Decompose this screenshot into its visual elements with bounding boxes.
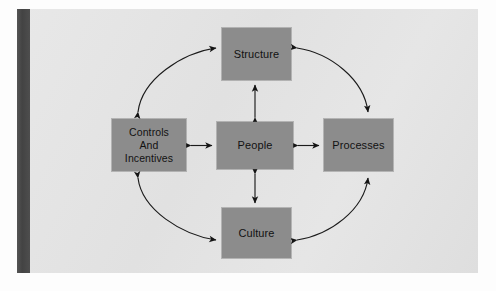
node-people[interactable]: People [217,122,293,169]
node-people-label: People [235,139,276,152]
node-controls-and-incentives-label: Controls And Incentives [122,126,176,165]
node-controls-and-incentives[interactable]: Controls And Incentives [112,119,186,171]
book-spine-bar [17,9,30,273]
edge-controls-culture [138,178,216,240]
edge-culture-processes [297,178,368,240]
node-culture[interactable]: Culture [222,208,291,258]
node-culture-label: Culture [235,227,277,240]
diagram-canvas: Structure Controls And Incentives People… [30,9,478,273]
node-processes-label: Processes [329,139,387,152]
node-processes[interactable]: Processes [324,119,393,171]
edge-controls-structure [138,48,216,112]
node-structure-label: Structure [231,48,283,61]
node-structure[interactable]: Structure [222,28,291,80]
edge-structure-processes [297,48,368,112]
screenshot-root: Structure Controls And Incentives People… [0,0,496,291]
